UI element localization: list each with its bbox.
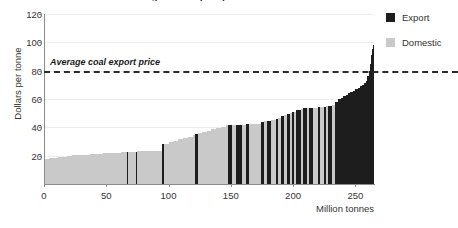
average-export-price-label: Average coal export price xyxy=(50,57,160,67)
legend-item-export[interactable]: Export xyxy=(386,12,456,23)
legend-label: Domestic xyxy=(402,37,442,48)
legend-item-domestic[interactable]: Domestic xyxy=(386,37,456,48)
x-axis-line xyxy=(44,184,375,185)
bar xyxy=(128,152,135,184)
y-tick-mark-120 xyxy=(39,14,42,15)
bar xyxy=(154,151,162,184)
bar-series xyxy=(44,14,374,184)
y-tick-mark-60 xyxy=(39,99,42,100)
x-tick-mark-150 xyxy=(231,184,232,187)
y-axis-label: Dollars per tonne xyxy=(12,29,23,139)
x-tick-mark-100 xyxy=(169,184,170,187)
x-axis-label: Million tonnes xyxy=(316,203,374,214)
bar xyxy=(146,151,154,184)
x-tick-mark-0 xyxy=(44,184,45,187)
y-tick-mark-20 xyxy=(39,156,42,157)
y-tick-mark-40 xyxy=(39,127,42,128)
x-tick-label-50: 50 xyxy=(101,190,112,201)
legend-label: Export xyxy=(402,12,429,23)
bar xyxy=(137,151,145,184)
x-tick-label-150: 150 xyxy=(223,190,239,201)
legend-swatch-domestic-icon xyxy=(386,38,395,47)
x-tick-mark-50 xyxy=(106,184,107,187)
legend-swatch-export-icon xyxy=(386,13,395,22)
x-tick-label-200: 200 xyxy=(285,190,301,201)
plot-area xyxy=(44,14,374,184)
bar xyxy=(373,45,374,184)
x-tick-mark-250 xyxy=(355,184,356,187)
x-tick-label-100: 100 xyxy=(161,190,177,201)
y-tick-mark-80 xyxy=(39,71,42,72)
average-export-price-line xyxy=(44,71,458,73)
x-tick-label-0: 0 xyxy=(41,190,46,201)
y-tick-mark-100 xyxy=(39,42,42,43)
bar xyxy=(249,124,256,184)
y-axis-line xyxy=(44,14,45,184)
x-tick-mark-200 xyxy=(293,184,294,187)
legend: ExportDomestic xyxy=(386,12,456,62)
x-tick-label-250: 250 xyxy=(347,190,363,201)
bar xyxy=(96,154,103,184)
chart-title: Average coal export price xyxy=(0,0,370,1)
x-axis-ticks: 050100150200250 xyxy=(0,186,458,202)
coal-supply-cost-curve-chart: Average coal export price 20406080100120… xyxy=(0,0,458,228)
